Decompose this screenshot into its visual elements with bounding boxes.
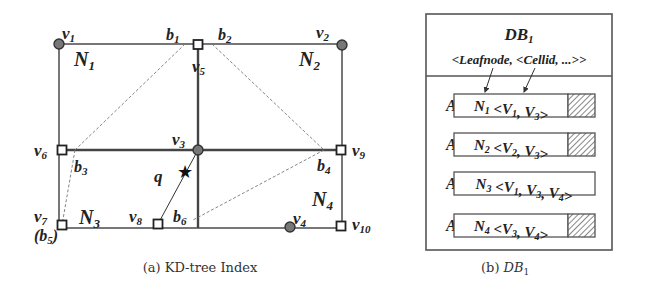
label-v2: v2: [316, 23, 330, 43]
db-schema: <Leafnode, <Cellid, ...>>: [452, 52, 587, 67]
label-N2: N2: [298, 48, 320, 73]
kd-tree-diagram: ★ q v1 v2 v3 v4 v5 v6 v7 v8 v9 v10 b1 b2…: [34, 23, 371, 275]
label-v4: v4: [293, 209, 307, 229]
db-entry-row: A1N1 <V1, V3>: [445, 94, 595, 123]
dashed-link-b4-b6: [193, 150, 324, 220]
db-entry-row: A2N2 <V2, V3>: [445, 133, 595, 162]
arrow-cellid: [524, 68, 535, 92]
figure-canvas: ★ q v1 v2 v3 v4 v5 v6 v7 v8 v9 v10 b1 b2…: [0, 0, 660, 307]
label-N1: N1: [73, 48, 95, 73]
label-b4: b4: [317, 157, 331, 176]
db-entry-row: A4N4 <V3, V4>: [445, 214, 595, 243]
hatched-flag-icon: [568, 214, 595, 237]
label-v3: v3: [172, 130, 186, 150]
vertex-v10-marker: [337, 222, 346, 231]
label-v8: v8: [129, 207, 143, 227]
label-v10: v10: [352, 215, 371, 235]
vertex-v7-marker: [58, 221, 67, 230]
caption-a: (a) KD-tree Index: [143, 260, 258, 275]
hatched-flag-icon: [568, 94, 595, 117]
label-b6: b6: [173, 208, 187, 227]
label-b3: b3: [74, 158, 88, 177]
vertex-v3-marker: [193, 145, 203, 155]
label-N3: N3: [78, 206, 100, 231]
vertex-v8-marker: [154, 220, 163, 229]
db-table-diagram: DB1 <Leafnode, <Cellid, ...>> A1N1 <V1, …: [426, 14, 612, 277]
vertex-v5-marker: [194, 40, 203, 49]
vertex-v6-marker: [58, 146, 67, 155]
label-v7: v7: [34, 207, 48, 227]
label-b1: b1: [166, 26, 180, 45]
db-entries: A1N1 <V1, V3>A2N2 <V2, V3>A3N3 <V1, V3, …: [445, 94, 595, 243]
label-v6: v6: [34, 141, 48, 161]
vertex-v9-marker: [337, 146, 346, 155]
db-title: DB1: [503, 25, 533, 45]
label-N4: N4: [311, 188, 333, 213]
query-label: q: [154, 167, 163, 186]
caption-b: (b) DB1: [481, 260, 529, 277]
db-entry-row: A3N3 <V1, V3, V4>: [445, 172, 595, 204]
label-b2: b2: [218, 26, 232, 45]
label-v1: v1: [62, 24, 75, 44]
hatched-flag-icon: [568, 133, 595, 156]
label-v9: v9: [352, 141, 366, 161]
query-star-icon: ★: [177, 161, 193, 182]
label-b5: (b5): [34, 227, 58, 246]
arrow-leafnode: [485, 68, 493, 92]
label-v5: v5: [192, 57, 206, 77]
vertex-v2-marker: [337, 40, 347, 50]
